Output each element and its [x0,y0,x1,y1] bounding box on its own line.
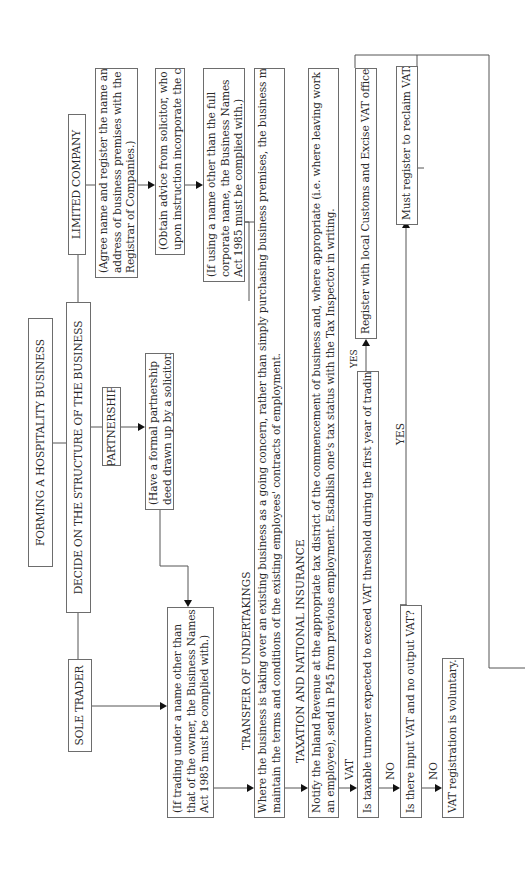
sole-trader-business-names-note: (If trading under a name other than that… [167,607,214,818]
transfer-undertakings-box: Where the business is taking over an exi… [254,68,285,818]
note-line: (Obtain advice from solicitor, who will [157,73,171,250]
vat-voluntary-box: VAT registration is voluntary. [442,658,464,818]
transfer-heading: TRANSFER OF UNDERTAKINGS [240,572,252,751]
note-line: address of business premises with the [111,73,125,273]
partnership-deed-note: (Have a formal partnership deed drawn up… [145,353,174,510]
sole-trader-label: SOLE TRADER [73,666,87,746]
no-label-2: NO [427,762,439,780]
text-line: maintain the terms and conditions of the… [270,73,284,813]
limited-company-solicitor-note: (Obtain advice from solicitor, who will … [155,68,185,255]
flowchart-canvas: FORMING A HOSPITALITY BUSINESS DECIDE ON… [0,0,525,888]
sole-trader-box: SOLE TRADER [68,659,92,752]
text-line: Where the business is taking over an exi… [256,73,270,813]
decide-structure-box: DECIDE ON THE STRUCTURE OF THE BUSINESS [66,302,91,613]
must-register-box: Must register to reclaim VAT. [396,66,418,225]
note-line: Act 1985 must be complied with.) [232,73,245,277]
note-line: deed drawn up by a solicitor.) [161,358,174,505]
taxation-box: Notify the Inland Revenue at the appropr… [308,68,339,818]
limited-company-register-note: (Agree name and register the name and ad… [95,68,138,278]
note-line: (If using a name other than the full [205,73,219,277]
note-line: (Have a formal partnership [147,358,161,505]
note-line: Act 1985 must be complied with.) [198,612,212,813]
note-line: upon instruction incorporate the company… [171,73,185,250]
partnership-box: PARTNERSHIP [102,387,121,466]
yes-label-2: YES [394,423,406,445]
register-customs-box: Register with local Customs and Excise V… [355,68,377,339]
partnership-label: PARTNERSHIP [105,387,119,466]
text-line: Notify the Inland Revenue at the appropr… [310,73,324,813]
no-label-1: NO [384,762,396,780]
note-line: (Agree name and register the name and [97,73,111,273]
note-line: that of the owner, the Business Names [185,612,199,813]
note-line: corporate name, the Business Names [219,73,233,277]
text-line: an employee), send in P45 from previous … [324,73,338,813]
title-text: FORMING A HOSPITALITY BUSINESS [34,339,48,546]
decide-structure-text: DECIDE ON THE STRUCTURE OF THE BUSINESS [72,321,86,595]
limited-company-box: LIMITED COMPANY [68,114,86,255]
input-vat-question: Is there input VAT and no output VAT? [400,605,422,818]
question-text: Is taxable turnover expected to exceed V… [361,371,373,813]
note-line: (If trading under a name other than [171,612,185,813]
note-line: Registrar of Companies.) [124,73,138,273]
vat-threshold-question: Is taxable turnover expected to exceed V… [357,371,379,818]
vat-heading: VAT [343,759,355,780]
yes-label-1: YES [348,349,360,368]
question-text: Is there input VAT and no output VAT? [404,610,416,813]
title-box: FORMING A HOSPITALITY BUSINESS [28,318,53,567]
register-text: Register with local Customs and Excise V… [359,68,371,334]
limited-company-business-names-note: (If using a name other than the full cor… [203,68,245,282]
voluntary-text: VAT registration is voluntary. [446,660,458,813]
limited-company-label: LIMITED COMPANY [70,130,84,239]
taxation-heading: TAXATION AND NATIONAL INSURANCE [294,539,306,763]
must-register-text: Must register to reclaim VAT. [400,66,412,220]
